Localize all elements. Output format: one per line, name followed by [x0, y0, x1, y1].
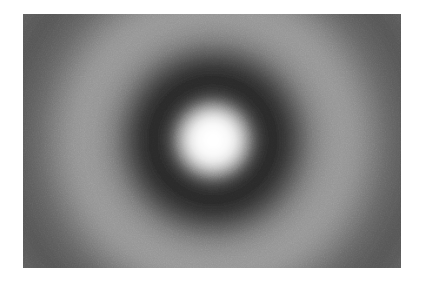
diffraction-image-plate	[23, 14, 401, 268]
concentric-ring-field	[23, 14, 401, 268]
film-grain-overlay	[23, 14, 401, 268]
figure-root	[0, 0, 423, 283]
